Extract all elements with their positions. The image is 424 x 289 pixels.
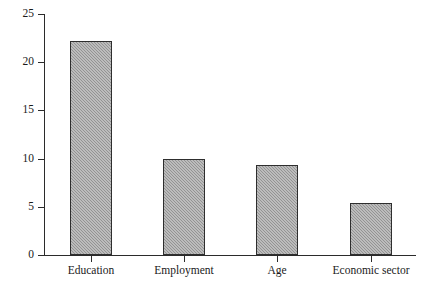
x-tick-mark [91, 256, 92, 262]
x-tick-label: Employment [154, 264, 213, 278]
x-tick-label: Economic sector [333, 264, 410, 278]
y-tick-mark [38, 110, 44, 111]
y-tick-mark [38, 14, 44, 15]
bar [350, 203, 392, 255]
x-axis-line [44, 255, 416, 256]
x-tick-mark [277, 256, 278, 262]
x-tick-label: Age [267, 264, 286, 278]
y-tick-label: 15 [6, 105, 34, 117]
bar [70, 41, 112, 255]
bar [163, 159, 205, 255]
y-tick-label: 10 [6, 153, 34, 165]
y-tick-label: 20 [6, 56, 34, 68]
x-tick-mark [184, 256, 185, 262]
y-tick-mark [38, 207, 44, 208]
x-tick-mark [371, 256, 372, 262]
y-tick-mark [38, 255, 44, 256]
y-tick-mark [38, 62, 44, 63]
y-tick-label: 5 [6, 201, 34, 213]
y-tick-label: 25 [6, 8, 34, 20]
bar [256, 165, 298, 255]
y-tick-mark [38, 159, 44, 160]
y-axis-line [44, 14, 45, 256]
bar-chart: 0510152025 EducationEmploymentAgeEconomi… [0, 0, 424, 289]
y-tick-label: 0 [6, 249, 34, 261]
x-tick-label: Education [68, 264, 115, 278]
